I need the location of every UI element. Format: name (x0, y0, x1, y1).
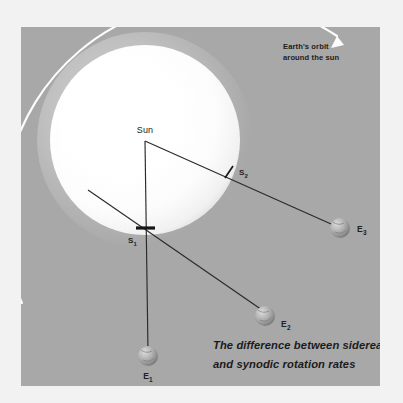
figure-page: Sun S2 S1 E3 E2 E1 Earth's orbit around … (0, 0, 403, 403)
earth-e3 (330, 218, 350, 238)
caption-line2: and synodic rotation rates (213, 358, 355, 370)
astronomy-diagram: Sun S2 S1 E3 E2 E1 Earth's orbit around … (0, 0, 403, 403)
sun-glow (37, 32, 253, 248)
caption-line1: The difference between sidereal (213, 339, 386, 351)
orbit-label-line1: Earth's orbit (283, 42, 329, 51)
sun-label: Sun (137, 125, 154, 135)
orbit-label-line2: around the sun (283, 53, 340, 62)
earth-e1 (138, 346, 158, 366)
earth-e2 (255, 306, 275, 326)
